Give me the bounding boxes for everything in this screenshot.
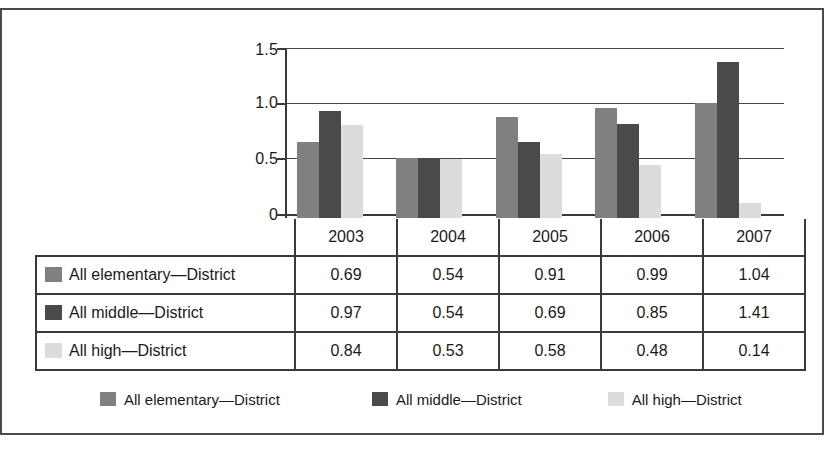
table-cell: 0.14 [703, 332, 805, 370]
chart-legend: All elementary—District All middle—Distr… [100, 388, 720, 410]
chart-figure: 1.5 1.0 0.5 0 2003 2004 2005 2006 2007 [0, 0, 824, 451]
figure-top-rule [0, 8, 824, 10]
bar-2004-series-2 [440, 159, 462, 218]
bar-2006-series-1 [617, 124, 639, 218]
table-row-label-high: All high—District [36, 332, 295, 370]
table-cell: 0.84 [295, 332, 397, 370]
legend-item-elementary: All elementary—District [100, 391, 280, 408]
series-swatch-icon [45, 305, 62, 320]
table-header-2006: 2006 [601, 219, 703, 256]
series-swatch-icon [45, 267, 62, 282]
bar-2007-series-0 [695, 103, 717, 218]
data-table: 2003 2004 2005 2006 2007 All elementary—… [35, 219, 806, 371]
bar-2005-series-0 [496, 117, 518, 218]
legend-item-label: All middle—District [396, 391, 522, 408]
table-cell: 0.54 [397, 294, 499, 332]
y-tick-label-1-0: 1.0 [220, 95, 278, 111]
table-row: All high—District 0.84 0.53 0.58 0.48 0.… [36, 332, 805, 370]
table-row-label-middle: All middle—District [36, 294, 295, 332]
table-header-corner [36, 219, 295, 256]
legend-swatch-icon [372, 392, 388, 406]
legend-item-middle: All middle—District [372, 391, 522, 408]
series-swatch-icon [45, 343, 62, 358]
figure-left-rule [0, 8, 2, 435]
table-header-2004: 2004 [397, 219, 499, 256]
table-row-label-text: All high—District [69, 342, 186, 359]
table-cell: 1.04 [703, 256, 805, 294]
bar-2003-series-2 [341, 125, 363, 218]
legend-item-high: All high—District [608, 391, 742, 408]
table-row: All elementary—District 0.69 0.54 0.91 0… [36, 256, 805, 294]
table-cell: 0.48 [601, 332, 703, 370]
table-row-label-text: All elementary—District [69, 266, 235, 283]
table-header-2005: 2005 [499, 219, 601, 256]
table-row: All middle—District 0.97 0.54 0.69 0.85 … [36, 294, 805, 332]
bar-group-2003 [287, 48, 386, 218]
table-cell: 0.97 [295, 294, 397, 332]
legend-item-label: All high—District [632, 391, 742, 408]
table-header-2003: 2003 [295, 219, 397, 256]
bar-2006-series-2 [639, 165, 661, 218]
table-header-2007: 2007 [703, 219, 805, 256]
y-tick-label-0-5: 0.5 [220, 151, 278, 167]
table-cell: 0.91 [499, 256, 601, 294]
legend-item-label: All elementary—District [124, 391, 280, 408]
bar-2006-series-0 [595, 108, 617, 218]
bar-2003-series-1 [319, 111, 341, 218]
bar-2005-series-1 [518, 142, 540, 218]
table-cell: 0.53 [397, 332, 499, 370]
table-cell: 0.54 [397, 256, 499, 294]
table-row-label-text: All middle—District [69, 304, 203, 321]
table-cell: 0.99 [601, 256, 703, 294]
table-header-row: 2003 2004 2005 2006 2007 [36, 219, 805, 256]
bar-2007-series-1 [717, 62, 739, 218]
table-row-label-elementary: All elementary—District [36, 256, 295, 294]
bar-2004-series-1 [418, 158, 440, 218]
legend-swatch-icon [608, 392, 624, 406]
bar-2004-series-0 [396, 158, 418, 218]
bar-group-2004 [386, 48, 485, 218]
bar-group-2006 [585, 48, 684, 218]
bar-2007-series-2 [739, 203, 761, 218]
table-cell: 1.41 [703, 294, 805, 332]
y-tick-label-1-5: 1.5 [220, 42, 278, 58]
bar-group-2007 [685, 48, 784, 218]
bar-2005-series-2 [540, 154, 562, 218]
table-cell: 0.58 [499, 332, 601, 370]
bar-group-2005 [486, 48, 585, 218]
plot-area: 1.5 1.0 0.5 0 [218, 42, 786, 218]
legend-swatch-icon [100, 392, 116, 406]
bar-groups [287, 48, 784, 218]
table-cell: 0.69 [295, 256, 397, 294]
table-cell: 0.69 [499, 294, 601, 332]
figure-bottom-rule [0, 433, 824, 435]
table-cell: 0.85 [601, 294, 703, 332]
bar-2003-series-0 [297, 142, 319, 218]
